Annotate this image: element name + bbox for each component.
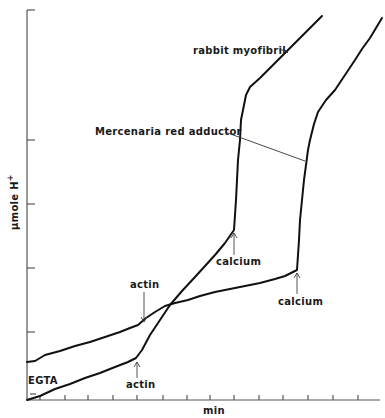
label-calcium-right: calcium: [278, 296, 323, 307]
leader-mercenaria: [225, 132, 305, 161]
annotations: rabbit myofibril Mercenaria red adductor…: [6, 45, 323, 416]
label-calcium-left: calcium: [216, 256, 261, 267]
label-actin-lower: actin: [126, 379, 156, 390]
y-axis-label-sup: +: [6, 174, 15, 181]
chart: rabbit myofibril Mercenaria red adductor…: [0, 0, 385, 418]
axes: [27, 10, 380, 400]
curve-rabbit-myofibril: [27, 16, 322, 400]
y-axis-label-main: µmole H: [9, 181, 20, 230]
label-actin-upper: actin: [130, 279, 160, 290]
label-mercenaria: Mercenaria red adductor: [95, 126, 242, 137]
y-axis-label: µmole H+: [6, 174, 20, 230]
y-ticks: [27, 10, 36, 394]
x-axis-label: min: [203, 405, 225, 416]
svg-text:µmole H+: µmole H+: [6, 174, 20, 230]
label-egta: EGTA: [28, 375, 58, 386]
curve-mercenaria-red-adductor: [27, 18, 382, 362]
label-rabbit-myofibril: rabbit myofibril: [193, 45, 286, 56]
x-ticks: [40, 395, 358, 400]
